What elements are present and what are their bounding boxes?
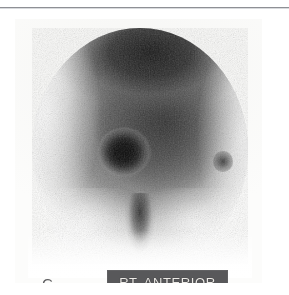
view-annotation-label: RT. ANTERIOR — [119, 275, 216, 284]
view-annotation-bar: RT. ANTERIOR — [107, 270, 228, 283]
scan-panel: RT. ANTERIOR C — [15, 19, 262, 283]
photon-noise-overlay-highlight — [32, 28, 248, 264]
top-horizontal-rule-shadow — [0, 8, 289, 9]
scintigraphy-scan-image — [32, 28, 248, 264]
figure-root: RT. ANTERIOR C — [0, 0, 289, 295]
panel-letter-label: C — [42, 275, 53, 283]
